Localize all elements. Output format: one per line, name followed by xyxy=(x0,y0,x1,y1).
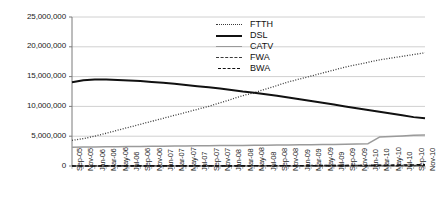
x-tick-label: Mar-06 xyxy=(109,148,118,171)
legend-swatch-dsl xyxy=(216,30,242,39)
legend-item-bwa[interactable]: BWA xyxy=(216,62,308,73)
x-tick-label: Sep-09 xyxy=(348,148,357,171)
y-tick-label: 20,000,000 xyxy=(0,41,66,50)
x-tick-label: Mar-10 xyxy=(382,148,391,171)
legend-label-bwa: BWA xyxy=(242,63,270,73)
x-tick-label: May-09 xyxy=(326,147,335,171)
line-chart: 05,000,00010,000,00015,000,00020,000,000… xyxy=(0,0,439,224)
y-tick-label: 0 xyxy=(0,161,66,170)
x-tick-label: Nov-08 xyxy=(291,148,300,171)
y-tick-label: 25,000,000 xyxy=(0,12,66,21)
x-tick-label: Jan-08 xyxy=(234,149,243,171)
x-tick-label: Jul-09 xyxy=(337,152,346,171)
x-tick-label: Jan-10 xyxy=(371,149,380,171)
y-tick-label: 5,000,000 xyxy=(0,131,66,140)
x-tick-label: Jan-06 xyxy=(98,149,107,171)
x-tick-label: Mar-07 xyxy=(177,148,186,171)
x-tick-label: Jul-06 xyxy=(132,152,141,171)
x-tick-label: Jan-09 xyxy=(303,149,312,171)
legend-swatch-bwa xyxy=(216,63,242,72)
x-tick-label: Nov-10 xyxy=(428,148,437,171)
x-tick-label: Nov-09 xyxy=(360,148,369,171)
x-tick-label: Jan-07 xyxy=(166,149,175,171)
x-tick-label: Mar-09 xyxy=(314,148,323,171)
x-tick-label: Nov-07 xyxy=(223,148,232,171)
x-tick-label: Jul-07 xyxy=(200,152,209,171)
x-tick-label: May-06 xyxy=(121,147,130,171)
x-tick-label: May-08 xyxy=(257,147,266,171)
x-tick-label: Jul-10 xyxy=(405,152,414,171)
series-line-dsl xyxy=(72,80,425,119)
x-tick-label: May-10 xyxy=(394,147,403,171)
legend-swatch-catv xyxy=(216,41,242,50)
legend-label-catv: CATV xyxy=(242,41,273,51)
legend-item-fwa[interactable]: FWA xyxy=(216,51,308,62)
legend-label-fwa: FWA xyxy=(242,52,270,62)
x-tick-label: May-07 xyxy=(189,147,198,171)
y-tick-label: 15,000,000 xyxy=(0,71,66,80)
legend-swatch-ftth xyxy=(216,19,242,28)
x-tick-label: Nov-06 xyxy=(155,148,164,171)
x-tick-label: Sep-06 xyxy=(143,148,152,171)
y-tick-label: 10,000,000 xyxy=(0,101,66,110)
x-tick-label: Sep-08 xyxy=(280,148,289,171)
legend-item-catv[interactable]: CATV xyxy=(216,40,308,51)
series-line-catv xyxy=(72,135,425,147)
legend-label-ftth: FTTH xyxy=(242,19,273,29)
x-tick-label: Sep-10 xyxy=(417,148,426,171)
x-tick-label: Mar-08 xyxy=(246,148,255,171)
legend-item-ftth[interactable]: FTTH xyxy=(216,18,308,29)
x-tick-label: Sep-07 xyxy=(212,148,221,171)
legend-label-dsl: DSL xyxy=(242,30,268,40)
legend-swatch-fwa xyxy=(216,52,242,61)
x-tick-label: Jul-08 xyxy=(269,152,278,171)
legend-item-dsl[interactable]: DSL xyxy=(216,29,308,40)
chart-legend: FTTH DSL CATV FWA BWA xyxy=(216,18,308,73)
x-tick-label: Nov-05 xyxy=(86,148,95,171)
x-tick-label: Sep-05 xyxy=(75,148,84,171)
